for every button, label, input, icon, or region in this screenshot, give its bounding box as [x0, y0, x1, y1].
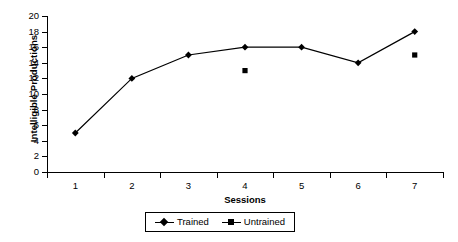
- data-point-trained: [298, 44, 305, 51]
- x-axis-tick: [273, 172, 274, 178]
- legend-label-trained: Trained: [177, 217, 209, 227]
- x-axis-tick: [47, 172, 48, 178]
- x-axis-tick: [217, 172, 218, 178]
- y-axis-tick-label: 12: [13, 73, 39, 83]
- y-axis-line: [47, 16, 48, 173]
- data-point-untrained: [412, 52, 417, 57]
- y-axis-tick-label: 18: [13, 27, 39, 37]
- legend-marker-square-icon: [222, 218, 241, 227]
- x-axis-tick: [330, 172, 331, 178]
- y-axis-tick-label: 14: [13, 58, 39, 68]
- data-point-trained: [185, 52, 192, 59]
- data-point-trained: [72, 130, 79, 137]
- x-axis-tick-label: 4: [230, 181, 260, 191]
- y-axis-tick-label: 4: [13, 136, 39, 146]
- x-axis-tick: [443, 172, 444, 178]
- data-point-trained: [411, 28, 418, 35]
- chart-legend: Trained Untrained: [145, 212, 295, 232]
- x-axis-tick: [386, 172, 387, 178]
- y-axis-tick-label: 8: [13, 105, 39, 115]
- data-point-trained: [242, 44, 249, 51]
- x-axis-tick-label: 7: [400, 181, 430, 191]
- x-axis-tick-label: 6: [343, 181, 373, 191]
- y-axis-tick-label: 0: [13, 167, 39, 177]
- x-axis-tick-label: 3: [173, 181, 203, 191]
- data-point-untrained: [242, 68, 247, 73]
- legend-entry-untrained: Untrained: [222, 217, 285, 227]
- x-axis-tick: [160, 172, 161, 178]
- x-axis-line: [47, 172, 443, 173]
- data-point-trained: [128, 75, 135, 82]
- x-axis-title: Sessions: [47, 194, 443, 205]
- y-axis-tick-label: 10: [13, 89, 39, 99]
- y-axis-tick-label: 6: [13, 120, 39, 130]
- x-axis-tick-label: 1: [60, 181, 90, 191]
- legend-entry-trained: Trained: [155, 217, 209, 227]
- legend-marker-diamond-icon: [155, 218, 174, 227]
- y-axis-tick-label: 2: [13, 151, 39, 161]
- x-axis-tick-label: 5: [287, 181, 317, 191]
- plot-data-layer: [0, 0, 458, 242]
- chart-container: Intelligible Productions 024681012141618…: [0, 0, 458, 242]
- y-axis-tick-label: 16: [13, 42, 39, 52]
- series-line-trained: [75, 32, 414, 133]
- x-axis-tick: [104, 172, 105, 178]
- y-axis-tick-label: 20: [13, 11, 39, 21]
- x-axis-tick-label: 2: [117, 181, 147, 191]
- legend-label-untrained: Untrained: [244, 217, 285, 227]
- data-point-trained: [355, 59, 362, 66]
